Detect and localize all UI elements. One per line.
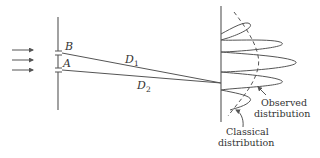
classical-pointer (236, 110, 243, 127)
slit-barrier (55, 17, 62, 110)
observed-pointer (258, 87, 266, 95)
svg-text:2: 2 (146, 85, 151, 94)
slit-b-label: B (64, 40, 73, 53)
path-d1-label: D 1 (124, 53, 139, 68)
svg-text:D: D (136, 79, 146, 92)
classical-label-line1: Classical (226, 126, 269, 137)
observed-label-line2: distribution (254, 108, 310, 119)
svg-text:D: D (124, 53, 134, 66)
path-d2-label: D 2 (136, 79, 151, 94)
incident-arrows (12, 50, 33, 70)
double-slit-diagram: B A D 1 D 2 Observed distribution Classi… (0, 0, 320, 158)
slit-a-label: A (62, 57, 71, 70)
classical-label-line2: distribution (218, 137, 274, 148)
observed-label-line1: Observed (261, 97, 307, 108)
svg-text:1: 1 (134, 59, 139, 68)
